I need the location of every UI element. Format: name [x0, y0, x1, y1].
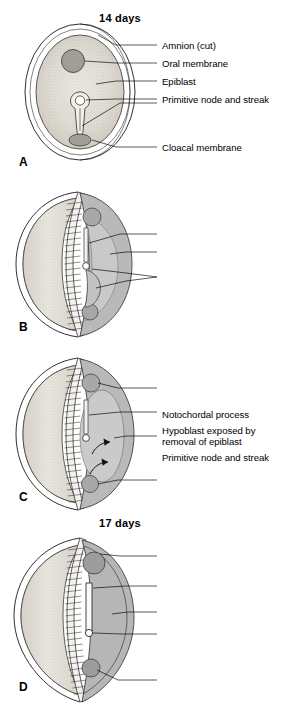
panel-c-drawing [0, 350, 298, 520]
notochord-proper-d [86, 583, 92, 634]
cloacal-membrane-c [82, 476, 99, 493]
panel-a-drawing [0, 0, 298, 180]
panel-b-drawing [0, 180, 298, 350]
embryology-figure: 14 days A [0, 0, 298, 712]
caudal-mesoderm-d [82, 659, 100, 677]
label-oral-membrane-a: Oral membrane [162, 58, 228, 69]
panel-d-drawing [0, 520, 298, 712]
label-cloacal-membrane-a: Cloacal membrane [162, 142, 242, 153]
label-primitive-node-streak-a: Primitive node and streak [162, 94, 269, 105]
primitive-node-b [83, 263, 90, 270]
oral-membrane-c [82, 374, 100, 392]
panel-c: C [0, 350, 298, 520]
panel-d: 17 days D [0, 520, 298, 712]
rostral-mesoderm-d [83, 552, 105, 574]
panel-b: B [0, 180, 298, 350]
panel-a: 14 days A [0, 0, 298, 180]
label-epiblast: Epiblast [162, 76, 196, 87]
notochordal-process-b [84, 228, 88, 262]
oral-membrane-b [83, 208, 101, 226]
notochordal-plate-c [84, 400, 88, 434]
neurenteric-canal-d [85, 629, 92, 636]
label-amnion-cut: Amnion (cut) [162, 40, 216, 51]
